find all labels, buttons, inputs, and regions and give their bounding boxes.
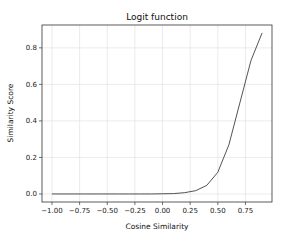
x-tick-label: −1.00 — [41, 207, 62, 215]
x-tick-label: 0.25 — [182, 207, 198, 215]
x-tick-label: −0.50 — [97, 207, 118, 215]
x-axis-label: Cosine Similarity — [125, 222, 189, 231]
chart-title: Logit function — [126, 12, 188, 22]
x-tick-label: −0.25 — [124, 207, 145, 215]
y-tick-label: 0.2 — [26, 154, 37, 162]
y-axis-ticks: 0.00.20.40.60.8 — [26, 44, 42, 198]
x-tick-label: 0.75 — [238, 207, 254, 215]
y-tick-label: 0.8 — [26, 44, 37, 52]
x-axis-ticks: −1.00−0.75−0.50−0.250.000.250.500.75 — [41, 202, 253, 215]
x-tick-label: 0.50 — [210, 207, 226, 215]
x-tick-label: −0.75 — [69, 207, 90, 215]
chart: Logit function −1.00−0.75−0.50−0.250.000… — [0, 0, 287, 237]
y-tick-label: 0.0 — [26, 190, 37, 198]
y-tick-label: 0.4 — [26, 117, 38, 125]
y-tick-label: 0.6 — [26, 81, 38, 89]
x-tick-label: 0.00 — [155, 207, 171, 215]
series-line — [52, 33, 262, 194]
data-line — [52, 33, 262, 194]
y-axis-label: Similarity Score — [6, 83, 15, 142]
